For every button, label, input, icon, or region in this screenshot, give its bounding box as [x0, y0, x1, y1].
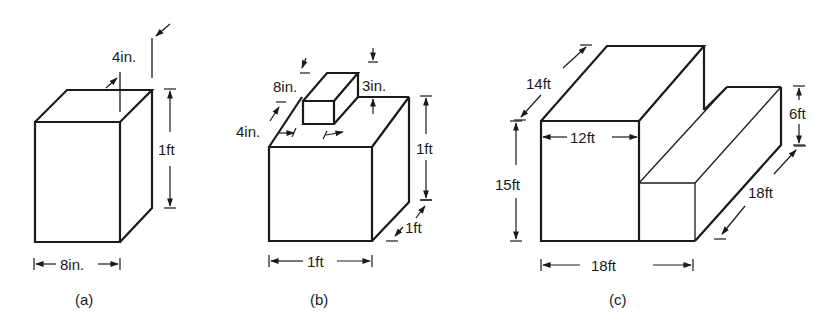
label-top-length-b: 8in.	[273, 78, 297, 95]
label-base-height-b: 1ft	[416, 140, 434, 157]
low-block-c	[639, 87, 781, 241]
dim-height-a: 1ft	[158, 89, 176, 208]
caption-a: (a)	[75, 291, 93, 308]
dim-base-width-b: 1ft	[269, 253, 372, 270]
dim-depth-a: 4in.	[106, 24, 170, 112]
panel-a: 8in. 1ft 4in. (a)	[34, 24, 176, 308]
panel-c: 18ft 15ft 14ft 12ft 6ft	[495, 45, 807, 308]
dim-height-c: 15ft	[495, 121, 522, 241]
top-block-b	[303, 73, 358, 124]
box-a	[35, 90, 152, 242]
label-low-height-c: 6ft	[789, 105, 807, 122]
caption-b: (b)	[310, 291, 328, 308]
label-depth-c: 14ft	[526, 75, 552, 92]
panel-b: 1ft 1ft 1ft 8in. 4in.	[236, 48, 434, 308]
label-width-a: 8in.	[60, 256, 84, 273]
dim-top-length-b: 8in.	[273, 58, 310, 95]
label-height-c: 15ft	[495, 176, 521, 193]
caption-c: (c)	[609, 291, 627, 308]
label-tall-width-c: 12ft	[570, 129, 596, 146]
label-height-a: 1ft	[158, 141, 176, 158]
label-top-height-b: 3in.	[362, 77, 386, 94]
dim-low-height-c: 6ft	[789, 86, 807, 145]
dim-width-c: 18ft	[541, 257, 693, 274]
dim-top-depth-b: 4in.	[236, 102, 343, 140]
label-low-depth-c: 18ft	[748, 184, 774, 201]
dim-base-height-b: 1ft	[416, 96, 434, 200]
dim-top-height-b: 3in.	[362, 48, 386, 114]
label-depth-a: 4in.	[112, 48, 136, 65]
label-base-width-b: 1ft	[307, 253, 325, 270]
figure-canvas: 8in. 1ft 4in. (a)	[0, 0, 834, 330]
dim-low-depth-c: 18ft	[714, 146, 806, 239]
label-top-depth-b: 4in.	[236, 123, 260, 140]
dim-width-a: 8in.	[34, 256, 120, 273]
tall-block-c	[541, 46, 704, 241]
label-width-c: 18ft	[591, 257, 617, 274]
dim-tall-width-c: 12ft	[543, 129, 637, 146]
label-base-depth-b: 1ft	[405, 219, 423, 236]
